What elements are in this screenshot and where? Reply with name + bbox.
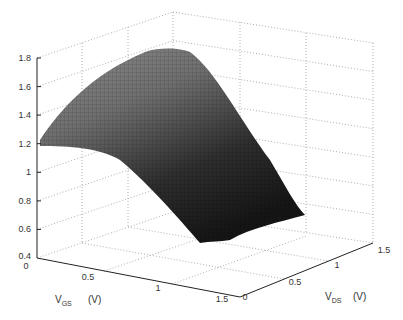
vgs-label-sub: GS	[62, 300, 72, 307]
surface	[40, 49, 305, 243]
vgs-tick: 0	[23, 261, 28, 271]
vgs-tick: 1.5	[216, 294, 229, 304]
vds-unit: (V)	[353, 291, 366, 302]
z-tick: 0.8	[18, 196, 31, 206]
z-tick: 0.4	[18, 251, 31, 261]
z-tick: 1.4	[18, 110, 31, 120]
z-tick: 1.2	[18, 139, 31, 149]
z-tick: 1.6	[18, 82, 31, 92]
z-tick: 1.8	[18, 53, 31, 63]
vgs-unit: (V)	[88, 294, 101, 305]
vgs-tick: 0.5	[82, 272, 95, 282]
y-axis-ticks: 0 0.5 1 1.5	[242, 245, 390, 302]
vds-tick: 1.5	[378, 245, 391, 255]
vds-label-sub: DS	[332, 297, 342, 304]
surface-plot: 1.8 1.6 1.4 1.2 1 0.8 0.6 0.4 0 0.5 1 1.…	[0, 0, 403, 320]
vds-tick: 1	[334, 260, 339, 270]
z-axis-ticks: 1.8 1.6 1.4 1.2 1 0.8 0.6 0.4	[18, 53, 41, 261]
vgs-tick: 1	[155, 283, 160, 293]
y-axis-label: VDS (V)	[325, 291, 366, 304]
vds-tick: 0	[242, 292, 247, 302]
x-axis-label: VGS (V)	[55, 294, 101, 307]
svg-text:VGS: VGS	[55, 294, 72, 307]
z-tick: 1	[26, 167, 31, 177]
svg-text:VDS: VDS	[325, 291, 342, 304]
vds-tick: 0.5	[289, 277, 302, 287]
z-tick: 0.6	[18, 224, 31, 234]
